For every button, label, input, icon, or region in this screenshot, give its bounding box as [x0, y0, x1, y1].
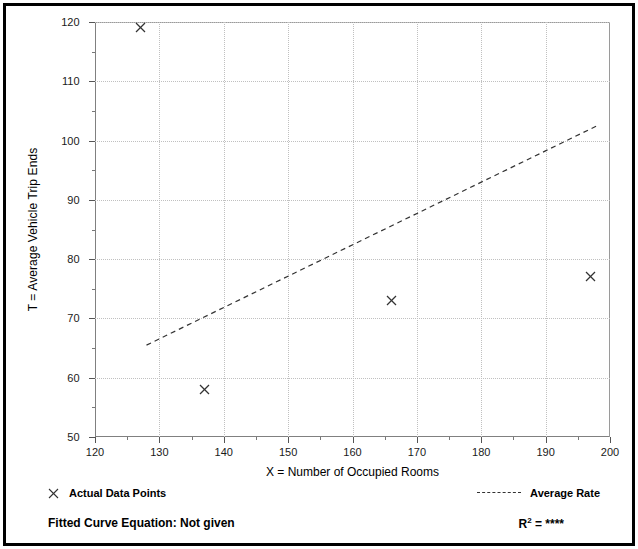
x-tick-label: 150	[279, 446, 297, 458]
legend-entry-average-rate: Average Rate	[477, 487, 600, 499]
r-squared-value: R2 = ****	[519, 516, 564, 531]
legend-entry-actual-data-points: Actual Data Points	[48, 487, 166, 499]
x-tick-minor	[385, 437, 386, 440]
chart-page: T = Average Vehicle Trip Ends 5060708090…	[0, 0, 638, 549]
x-tick	[417, 437, 418, 443]
y-tick-label: 90	[67, 194, 79, 206]
data-point-marker	[199, 384, 210, 395]
data-point-marker	[386, 295, 397, 306]
average-rate-trendline	[95, 22, 610, 437]
x-axis-title: X = Number of Occupied Rooms	[95, 465, 610, 479]
x-tick-minor	[320, 437, 321, 440]
x-tick-minor	[513, 437, 514, 440]
x-tick-label: 170	[408, 446, 426, 458]
x-tick	[353, 437, 354, 443]
x-tick	[481, 437, 482, 443]
x-tick-minor	[578, 437, 579, 440]
x-tick	[288, 437, 289, 443]
data-point-marker	[585, 271, 596, 282]
x-tick	[610, 437, 611, 443]
y-tick-label: 110	[62, 75, 80, 87]
x-tick-minor	[256, 437, 257, 440]
x-tick-label: 140	[215, 446, 233, 458]
x-tick-minor	[449, 437, 450, 440]
x-tick	[159, 437, 160, 443]
y-tick-label: 80	[67, 253, 79, 265]
y-axis-title: T = Average Vehicle Trip Ends	[24, 22, 42, 437]
x-tick	[224, 437, 225, 443]
x-tick-label: 180	[472, 446, 490, 458]
y-tick-label: 60	[67, 372, 79, 384]
y-tick-label: 70	[67, 312, 79, 324]
y-tick-label: 100	[61, 135, 79, 147]
x-tick-label: 160	[343, 446, 361, 458]
x-tick-label: 190	[536, 446, 554, 458]
y-tick-label: 50	[67, 431, 79, 443]
legend-label-actual-data-points: Actual Data Points	[69, 487, 166, 499]
x-tick-label: 200	[601, 446, 619, 458]
x-tick-minor	[192, 437, 193, 440]
legend: Actual Data Points Average Rate	[48, 487, 600, 507]
r-squared-prefix: R	[519, 517, 528, 531]
x-tick-minor	[127, 437, 128, 440]
data-point-marker	[135, 22, 146, 33]
fitted-curve-equation: Fitted Curve Equation: Not given	[48, 516, 235, 530]
chart-footer: Fitted Curve Equation: Not given R2 = **…	[48, 516, 600, 538]
x-tick	[546, 437, 547, 443]
x-tick-label: 120	[86, 446, 104, 458]
plot-region: 5060708090100110120120130140150160170180…	[95, 22, 610, 437]
x-tick-label: 130	[150, 446, 168, 458]
x-tick	[95, 437, 96, 443]
legend-label-average-rate: Average Rate	[530, 487, 600, 499]
dashed-line-icon	[477, 492, 521, 493]
y-tick-label: 120	[61, 16, 79, 28]
r-squared-equals: = ****	[532, 517, 564, 531]
x-marker-icon	[48, 488, 59, 499]
